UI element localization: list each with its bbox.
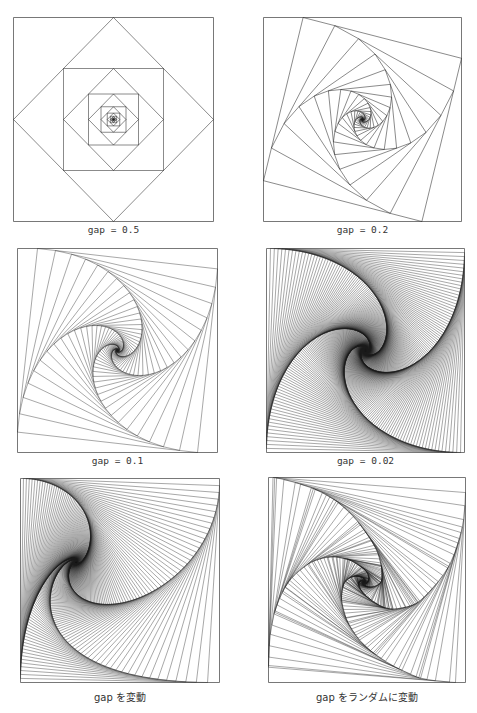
panel-gap-0-1: gap = 0.1 bbox=[17, 248, 218, 471]
spiral-drawing bbox=[20, 478, 222, 685]
panel-caption: gap をランダムに変動 bbox=[268, 689, 466, 704]
panel-gap-random: gap をランダムに変動 bbox=[268, 477, 466, 705]
spiral-drawing bbox=[266, 248, 467, 455]
spiral-drawing bbox=[17, 248, 220, 455]
spiral-drawing bbox=[13, 17, 216, 224]
panel-gap-varying: gap を変動 bbox=[20, 478, 220, 705]
spiral-drawing bbox=[263, 17, 464, 224]
panel-gap-0-02: gap = 0.02 bbox=[266, 248, 465, 471]
panel-caption: gap = 0.1 bbox=[17, 455, 218, 466]
panel-caption: gap = 0.02 bbox=[266, 455, 465, 466]
panel-caption: gap を変動 bbox=[20, 689, 220, 704]
panel-caption: gap = 0.2 bbox=[263, 224, 462, 235]
panel-caption: gap = 0.5 bbox=[13, 224, 214, 235]
panel-gap-0-2: gap = 0.2 bbox=[263, 17, 462, 240]
panel-gap-0-5: gap = 0.5 bbox=[13, 17, 214, 240]
spiral-drawing bbox=[268, 477, 468, 685]
